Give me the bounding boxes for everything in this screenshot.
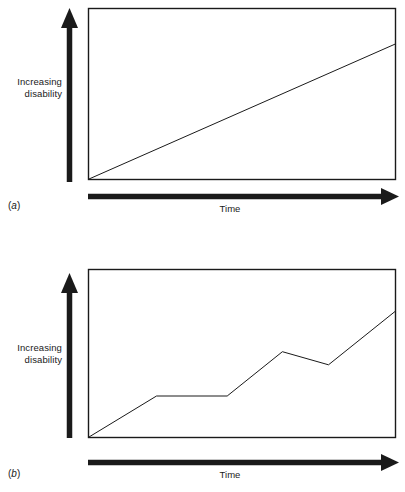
figure-panel-b: Increasing disability Time (b) bbox=[0, 246, 405, 492]
y-axis-label-a-line1: Increasing bbox=[17, 76, 62, 87]
panel-tag-a: (a) bbox=[8, 200, 20, 211]
y-axis-arrow-b bbox=[61, 273, 78, 438]
plot-area-a bbox=[88, 8, 396, 180]
y-axis-label-b: Increasing disability bbox=[0, 342, 62, 365]
y-axis-label-a-line2: disability bbox=[25, 88, 62, 99]
x-axis-label-b: Time bbox=[190, 469, 270, 480]
y-axis-arrow-a bbox=[61, 8, 78, 182]
panel-tag-b-close: ) bbox=[17, 468, 20, 479]
panel-tag-b: (b) bbox=[8, 468, 20, 479]
x-axis-label-a: Time bbox=[190, 203, 270, 214]
plot-area-b bbox=[88, 269, 396, 438]
y-axis-label-b-line1: Increasing bbox=[17, 342, 62, 353]
figure-panel-a: Increasing disability Time (a) bbox=[0, 0, 405, 246]
y-axis-label-b-line2: disability bbox=[25, 354, 62, 365]
panel-tag-a-close: ) bbox=[17, 200, 20, 211]
y-axis-label-a: Increasing disability bbox=[0, 76, 62, 99]
